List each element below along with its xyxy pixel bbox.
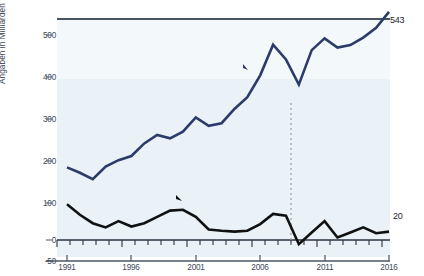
plot-area <box>0 0 424 276</box>
y-tick-marks <box>46 35 52 261</box>
chart-figure: Angaben in Milliarden Euro 500 400 300 2… <box>0 0 424 276</box>
plot-band-upper <box>57 19 390 79</box>
